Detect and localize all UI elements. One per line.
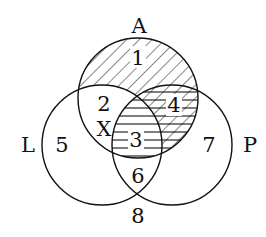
region-1: 1	[131, 46, 144, 70]
region-6: 6	[131, 164, 144, 188]
region-7: 7	[202, 133, 215, 157]
venn-svg: A L P 1 2 3 4 5 6 7 8 X	[0, 0, 266, 237]
region-2: 2	[97, 92, 110, 116]
venn-diagram: A L P 1 2 3 4 5 6 7 8 X	[0, 0, 266, 237]
set-label-a: A	[130, 14, 147, 38]
set-label-p: P	[243, 133, 257, 157]
region-3: 3	[129, 128, 142, 152]
set-label-l: L	[21, 133, 35, 157]
region-5: 5	[55, 133, 68, 157]
marker-x: X	[97, 117, 112, 141]
region-4: 4	[167, 93, 180, 117]
region-8: 8	[131, 204, 144, 228]
